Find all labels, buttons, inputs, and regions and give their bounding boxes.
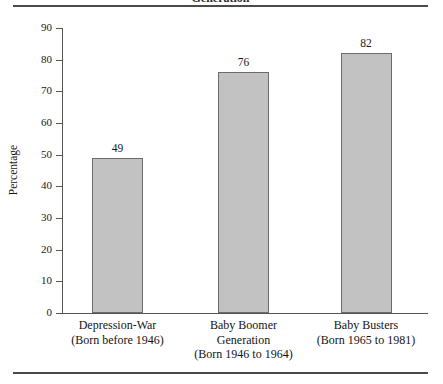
y-tick-mark	[56, 123, 62, 124]
y-tick-mark	[56, 155, 62, 156]
y-axis-line	[62, 28, 63, 314]
x-axis-line	[62, 313, 428, 314]
y-tick-label: 70	[26, 85, 52, 96]
bar-chart: Percentage 0102030405060708090 497682 De…	[0, 0, 443, 384]
y-tick-mark	[56, 218, 62, 219]
y-tick-mark	[56, 91, 62, 92]
y-tick-label: 0	[26, 307, 52, 318]
y-axis-title: Percentage	[7, 125, 19, 215]
bar	[92, 158, 143, 313]
bar-value-label: 76	[214, 56, 274, 68]
bar-value-label: 49	[88, 142, 148, 154]
y-tick-label: 90	[26, 22, 52, 33]
bottom-horizontal-rule	[13, 372, 428, 374]
y-tick-label: 30	[26, 212, 52, 223]
y-tick-mark	[56, 28, 62, 29]
y-tick-mark	[56, 313, 62, 314]
y-tick-mark	[56, 250, 62, 251]
y-tick-label: 80	[26, 54, 52, 65]
y-tick-label: 40	[26, 180, 52, 191]
y-tick-label: 10	[26, 275, 52, 286]
category-label: Baby Busters(Born 1965 to 1981)	[291, 318, 441, 347]
y-tick-mark	[56, 281, 62, 282]
bar	[218, 72, 269, 313]
y-tick-label: 60	[26, 117, 52, 128]
category-label-line: (Born 1965 to 1981)	[291, 333, 441, 348]
category-label-line: Baby Busters	[291, 318, 441, 333]
y-tick-mark	[56, 186, 62, 187]
bar-value-label: 82	[336, 37, 396, 49]
y-tick-label: 50	[26, 149, 52, 160]
y-tick-label: 20	[26, 244, 52, 255]
y-tick-mark	[56, 60, 62, 61]
category-label-line: (Born 1946 to 1964)	[169, 347, 319, 362]
bar	[341, 53, 392, 313]
